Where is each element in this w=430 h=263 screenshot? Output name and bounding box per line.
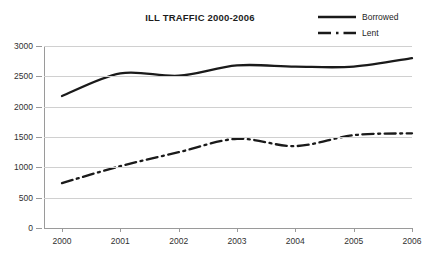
x-axis-tick-label: 2001 [111,236,130,246]
gridline-y [44,46,412,47]
plot-area: 050010001500200025003000 [44,46,412,228]
gridline-y [44,107,412,108]
x-axis-tick-label: 2000 [53,236,72,246]
y-axis-tick [36,167,42,168]
y-axis-tick-label: 1000 [14,162,33,172]
x-axis-tick-label: 2006 [403,236,422,246]
x-axis-tick [412,228,413,232]
y-axis-tick [36,76,42,77]
legend-swatch-dashdot-line [316,28,358,38]
gridline-y [44,167,412,168]
y-axis-tick-label: 3000 [14,41,33,51]
y-axis-tick [36,198,42,199]
y-axis-tick-label: 0 [28,223,33,233]
chart-legend: Borrowed Lent [316,9,424,41]
x-axis-tick [62,228,63,232]
x-axis-tick [179,228,180,232]
chart-container: ILL TRAFFIC 2000-2006 Borrowed Lent 0500… [0,0,430,263]
legend-label-lent: Lent [362,28,379,38]
x-axis-tick-label: 2004 [286,236,305,246]
x-axis-tick-label: 2003 [228,236,247,246]
x-axis-tick [295,228,296,232]
gridline-y [44,198,412,199]
y-axis-tick-label: 2500 [14,71,33,81]
gridline-y [44,137,412,138]
y-axis-tick [36,137,42,138]
legend-swatch-solid-line [316,12,358,22]
y-axis-tick [36,107,42,108]
legend-label-borrowed: Borrowed [362,12,398,22]
x-axis-tick-label: 2005 [344,236,363,246]
series-line-lent [62,133,412,183]
x-axis-labels: 2000200120022003200420052006 [44,228,413,254]
y-axis-tick-label: 1500 [14,132,33,142]
x-axis-tick [120,228,121,232]
x-axis-tick [354,228,355,232]
gridline-y [44,76,412,77]
x-axis-tick [237,228,238,232]
y-axis-tick [36,228,42,229]
chart-title: ILL TRAFFIC 2000-2006 [95,12,305,23]
x-axis-tick-label: 2002 [169,236,188,246]
y-axis-tick [36,46,42,47]
y-axis-tick-label: 2000 [14,102,33,112]
legend-item-lent: Lent [316,25,424,41]
legend-item-borrowed: Borrowed [316,9,424,25]
y-axis-tick-label: 500 [19,193,33,203]
